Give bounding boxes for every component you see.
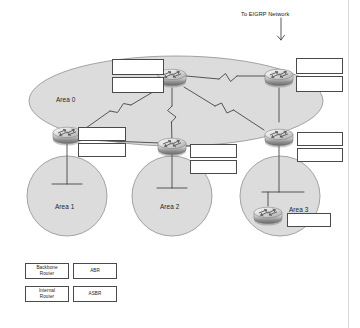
blank-box-center-top[interactable] <box>112 59 164 75</box>
blank-box-asbr-bottom[interactable] <box>296 76 343 92</box>
blank-box-area2-bottom[interactable] <box>190 160 237 174</box>
blank-box-area1-bottom[interactable] <box>78 143 126 157</box>
blank-box-area2-top[interactable] <box>190 144 237 158</box>
router-abr-area3[interactable] <box>265 129 293 147</box>
legend-item-asbr: ASBR <box>73 286 117 302</box>
blank-box-asbr-top[interactable] <box>296 58 343 74</box>
link-eigrp-arrow <box>277 18 284 40</box>
diagram-canvas: To EIGRP Network Area 0 Area 1 Area 2 Ar… <box>0 0 360 328</box>
blank-box-area3-internal[interactable] <box>287 213 331 227</box>
blank-box-area3-bottom[interactable] <box>297 148 343 162</box>
area-1-label: Area 1 <box>55 203 74 211</box>
legend-item-abr: ABR <box>73 263 117 279</box>
area-0-label: Area 0 <box>56 96 75 104</box>
router-abr-area1[interactable] <box>53 127 81 145</box>
legend-item-internal-router: InternalRouter <box>25 286 69 302</box>
router-abr-area2[interactable] <box>158 138 186 156</box>
area-2-label: Area 2 <box>160 203 179 211</box>
router-internal-area3[interactable] <box>254 207 282 225</box>
page-edge-line <box>348 0 349 328</box>
blank-box-area1-top[interactable] <box>78 127 126 141</box>
router-asbr[interactable] <box>265 69 293 87</box>
eigrp-network-label: To EIGRP Network <box>241 11 289 18</box>
legend-item-backbone-router: BackboneRouter <box>25 263 69 279</box>
blank-box-center-bottom[interactable] <box>112 77 164 93</box>
blank-box-area3-top[interactable] <box>297 132 343 146</box>
